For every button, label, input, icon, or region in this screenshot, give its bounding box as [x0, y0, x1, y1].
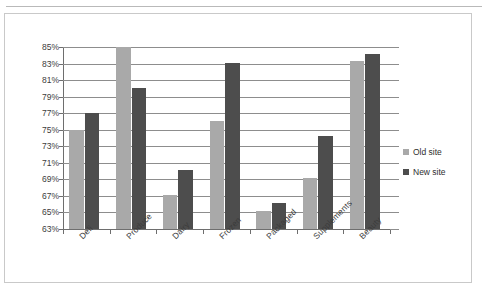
bar-supplements-old-site[interactable] [303, 178, 318, 229]
legend-swatch-icon-new-site [403, 169, 409, 175]
bar-deli-old-site[interactable] [69, 130, 84, 229]
bar-beauty-new-site[interactable] [365, 54, 380, 229]
y-axis-label-63%: 63% [25, 225, 59, 234]
plot-area [63, 47, 390, 229]
y-axis-label-75%: 75% [25, 126, 59, 135]
bar-frozen-new-site[interactable] [225, 63, 240, 229]
tick-right-83% [390, 64, 399, 65]
legend-label-new-site: New site [413, 168, 446, 177]
y-axis-label-65%: 65% [25, 208, 59, 217]
legend-item-old-site[interactable]: Old site [403, 147, 475, 157]
tick-right-67% [390, 196, 399, 197]
bar-frozen-old-site[interactable] [210, 121, 225, 229]
chart-legend: Old site New site [403, 147, 475, 187]
tick-right-81% [390, 80, 399, 81]
tick-right-71% [390, 163, 399, 164]
legend-item-new-site[interactable]: New site [403, 167, 475, 177]
page-horizontal-rule [6, 6, 482, 7]
x-axis-category-labels: DeliProduceDairyFrozenPackagedSupplement… [63, 234, 403, 290]
bar-produce-old-site[interactable] [116, 47, 131, 229]
y-axis-label-71%: 71% [25, 159, 59, 168]
tick-right-69% [390, 179, 399, 180]
y-axis-tick-labels: 63%65%67%69%71%73%75%77%79%81%83%85% [23, 47, 59, 229]
y-axis-label-83%: 83% [25, 60, 59, 69]
y-axis-label-67%: 67% [25, 192, 59, 201]
y-axis-label-85%: 85% [25, 43, 59, 52]
tick-right-73% [390, 146, 399, 147]
bar-produce-new-site[interactable] [132, 88, 147, 229]
tick-right-79% [390, 97, 399, 98]
bar-packaged-old-site[interactable] [256, 211, 271, 229]
y-axis-label-77%: 77% [25, 109, 59, 118]
gridline-85% [63, 47, 390, 48]
y-axis-label-81%: 81% [25, 76, 59, 85]
tick-right-65% [390, 212, 399, 213]
bar-deli-new-site[interactable] [85, 113, 100, 229]
legend-swatch-icon-old-site [403, 149, 409, 155]
bar-dairy-old-site[interactable] [163, 195, 178, 229]
tick-right-75% [390, 130, 399, 131]
tick-right-85% [390, 47, 399, 48]
tick-right-77% [390, 113, 399, 114]
y-axis-label-69%: 69% [25, 175, 59, 184]
y-axis-label-73%: 73% [25, 142, 59, 151]
y-axis-label-79%: 79% [25, 93, 59, 102]
legend-label-old-site: Old site [413, 148, 442, 157]
chart-figure-frame: 63%65%67%69%71%73%75%77%79%81%83%85% Del… [4, 13, 472, 283]
